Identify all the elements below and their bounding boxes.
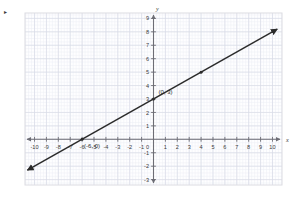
x-tick-label: 9	[259, 144, 262, 150]
x-tick-label: 7	[235, 144, 238, 150]
x-tick-label: 2	[176, 144, 179, 150]
x-tick-label: 10	[269, 144, 275, 150]
y-tick-label: 9	[146, 15, 149, 21]
y-tick-label: 8	[146, 29, 149, 35]
y-tick-label: 4	[146, 83, 149, 89]
y-tick-label: 1	[146, 123, 149, 129]
point-annotation: (0, 3)	[159, 89, 173, 95]
x-tick-label: -9	[44, 144, 49, 150]
stray-edge-mark: ▸	[4, 9, 7, 15]
x-axis-name: x	[285, 136, 289, 143]
y-tick-label: -2	[144, 163, 149, 169]
x-tick-label: 4	[200, 144, 203, 150]
y-tick-label: -1	[144, 150, 149, 156]
graph-figure: -10-9-8-7-6-5-4-3-2-11234567891098765432…	[0, 0, 295, 197]
x-tick-label: -4	[103, 144, 108, 150]
data-point-marker	[200, 71, 203, 74]
x-tick-label: 5	[211, 144, 214, 150]
origin-label: 0	[146, 144, 149, 150]
x-tick-label: 8	[247, 144, 250, 150]
y-tick-label: 5	[146, 69, 149, 75]
x-tick-label: 1	[164, 144, 167, 150]
x-tick-label: -10	[30, 144, 38, 150]
y-tick-label: 2	[146, 110, 149, 116]
y-tick-label: 6	[146, 56, 149, 62]
x-tick-label: 6	[223, 144, 226, 150]
y-axis-name: y	[155, 5, 159, 12]
coordinate-plane-svg: -10-9-8-7-6-5-4-3-2-11234567891098765432…	[0, 0, 295, 197]
y-tick-label: -3	[144, 177, 149, 183]
point-annotation: (-6, 0)	[84, 143, 100, 149]
data-point-marker	[81, 138, 84, 141]
x-tick-label: 3	[188, 144, 191, 150]
y-tick-label: 7	[146, 42, 149, 48]
data-point-marker	[152, 98, 155, 101]
x-tick-label: -8	[56, 144, 61, 150]
x-tick-label: -3	[115, 144, 120, 150]
x-tick-label: -2	[127, 144, 132, 150]
